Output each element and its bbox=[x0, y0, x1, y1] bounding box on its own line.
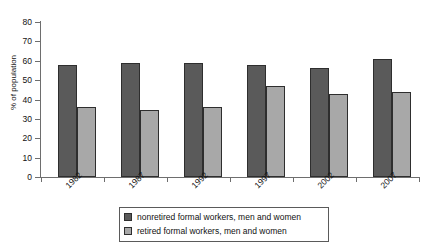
y-axis-tick bbox=[35, 138, 40, 139]
y-axis-tick bbox=[35, 80, 40, 81]
y-axis-tick bbox=[35, 177, 40, 178]
bar bbox=[140, 110, 159, 177]
bar bbox=[329, 94, 348, 177]
y-axis-tick bbox=[35, 41, 40, 42]
bar bbox=[121, 63, 140, 177]
bar-chart-figure: % of population 01020304050607080 198219… bbox=[0, 0, 427, 244]
y-axis-tick-label: 80 bbox=[8, 18, 32, 27]
x-axis-tick bbox=[293, 178, 294, 182]
y-axis-tick-label: 60 bbox=[8, 57, 32, 66]
y-axis-tick bbox=[35, 22, 40, 23]
x-axis-tick bbox=[230, 178, 231, 182]
x-axis-tick bbox=[167, 178, 168, 182]
bar-group bbox=[121, 22, 159, 177]
bar bbox=[247, 65, 266, 177]
x-axis-tick bbox=[104, 178, 105, 182]
y-axis-tick-label: 30 bbox=[8, 115, 32, 124]
bar bbox=[373, 59, 392, 177]
y-axis-tick bbox=[35, 158, 40, 159]
legend-swatch-icon-nonretired bbox=[124, 213, 132, 221]
clipped-title-sliver bbox=[6, 0, 421, 4]
bar bbox=[266, 86, 285, 177]
legend-swatch-icon-retired bbox=[124, 227, 132, 235]
y-axis-tick-label: 0 bbox=[8, 173, 32, 182]
y-axis-tick bbox=[35, 119, 40, 120]
x-axis-tick bbox=[356, 178, 357, 182]
legend-item-nonretired: nonretired formal workers, men and women bbox=[124, 210, 324, 224]
bar-group bbox=[58, 22, 96, 177]
y-axis-tick-label: 70 bbox=[8, 37, 32, 46]
bar bbox=[203, 107, 222, 177]
bar bbox=[310, 68, 329, 177]
x-axis-tick bbox=[419, 178, 420, 182]
y-axis-tick-label: 40 bbox=[8, 96, 32, 105]
y-axis-tick bbox=[35, 61, 40, 62]
bar bbox=[392, 92, 411, 177]
bar bbox=[58, 65, 77, 177]
x-axis-tick bbox=[41, 178, 42, 182]
legend-item-retired: retired formal workers, men and women bbox=[124, 224, 324, 238]
plot-area bbox=[41, 22, 419, 177]
y-axis-tick-label: 50 bbox=[8, 76, 32, 85]
bar-group bbox=[184, 22, 222, 177]
bar bbox=[77, 107, 96, 177]
bar-group bbox=[247, 22, 285, 177]
legend-label-retired: retired formal workers, men and women bbox=[137, 227, 287, 236]
bar-group bbox=[373, 22, 411, 177]
bar-group bbox=[310, 22, 348, 177]
bar bbox=[184, 63, 203, 177]
chart-legend: nonretired formal workers, men and women… bbox=[119, 207, 329, 242]
y-axis-tick bbox=[35, 100, 40, 101]
y-axis-tick-label: 10 bbox=[8, 154, 32, 163]
y-axis-tick-label: 20 bbox=[8, 134, 32, 143]
legend-label-nonretired: nonretired formal workers, men and women bbox=[137, 213, 301, 222]
